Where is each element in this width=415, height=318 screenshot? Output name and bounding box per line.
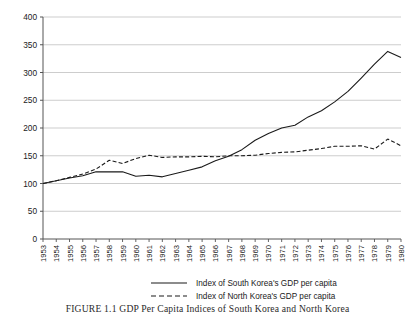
y-axis-tick-labels: 050100150200250300350400 — [23, 12, 37, 244]
x-tick-label: 1953 — [39, 245, 48, 262]
x-tick-label: 1972 — [291, 245, 300, 262]
x-tick-label: 1966 — [211, 245, 220, 262]
x-tick-label: 1961 — [145, 245, 154, 262]
data-series-group — [43, 51, 401, 183]
x-tick-label: 1960 — [132, 245, 141, 262]
figure-caption: FIGURE 1.1 GDP Per Capita Indices of Sou… — [0, 303, 415, 314]
figure-container: 050100150200250300350400 195319541955195… — [0, 0, 415, 318]
y-tick-label: 150 — [23, 151, 37, 161]
x-tick-label: 1956 — [79, 245, 88, 262]
y-tick-label: 100 — [23, 179, 37, 189]
legend-label-north-korea: Index of North Korea's GDP per capita — [196, 292, 336, 301]
y-gridlines — [43, 17, 401, 211]
y-tick-label: 400 — [23, 12, 37, 22]
x-tick-label: 1975 — [331, 245, 340, 262]
x-tick-label: 1969 — [251, 245, 260, 262]
x-tick-label: 1976 — [344, 245, 353, 262]
x-tick-label: 1971 — [278, 245, 287, 262]
gdp-index-line-chart: 050100150200250300350400 195319541955195… — [0, 0, 415, 318]
x-tick-label: 1959 — [119, 245, 128, 262]
x-tick-label: 1973 — [304, 245, 313, 262]
x-axis-tick-labels: 1953195419551956195719581959196019611962… — [39, 245, 406, 262]
chart-legend: Index of South Korea's GDP per capitaInd… — [151, 279, 337, 301]
x-tick-label: 1963 — [172, 245, 181, 262]
x-tick-label: 1964 — [185, 245, 194, 262]
y-tick-label: 0 — [32, 234, 37, 244]
x-tick-label: 1967 — [225, 245, 234, 262]
y-tick-label: 350 — [23, 40, 37, 50]
series-line-north-korea — [43, 139, 401, 183]
x-tick-label: 1965 — [198, 245, 207, 262]
y-tick-label: 250 — [23, 95, 37, 105]
y-tick-label: 200 — [23, 123, 37, 133]
x-tick-label: 1977 — [357, 245, 366, 262]
legend-label-south-korea: Index of South Korea's GDP per capita — [196, 279, 337, 288]
x-tick-label: 1962 — [158, 245, 167, 262]
x-tick-label: 1958 — [105, 245, 114, 262]
series-line-south-korea — [43, 51, 401, 183]
y-tick-label: 300 — [23, 68, 37, 78]
x-tick-label: 1970 — [264, 245, 273, 262]
x-tick-label: 1957 — [92, 245, 101, 262]
x-tick-label: 1979 — [384, 245, 393, 262]
y-tick-label: 50 — [28, 206, 38, 216]
x-tick-label: 1955 — [66, 245, 75, 262]
x-tick-label: 1974 — [317, 245, 326, 262]
x-tick-label: 1968 — [238, 245, 247, 262]
x-tick-label: 1978 — [370, 245, 379, 262]
x-tick-label: 1954 — [52, 245, 61, 262]
x-tick-label: 1980 — [397, 245, 406, 262]
